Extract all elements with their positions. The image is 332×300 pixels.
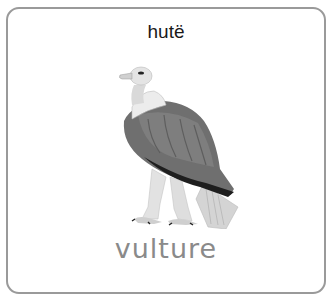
flashcard: hutë vulture	[6, 7, 326, 294]
native-word-label: hutë	[8, 21, 324, 43]
vulture-image	[108, 59, 248, 229]
english-word-label: vulture	[8, 233, 324, 264]
